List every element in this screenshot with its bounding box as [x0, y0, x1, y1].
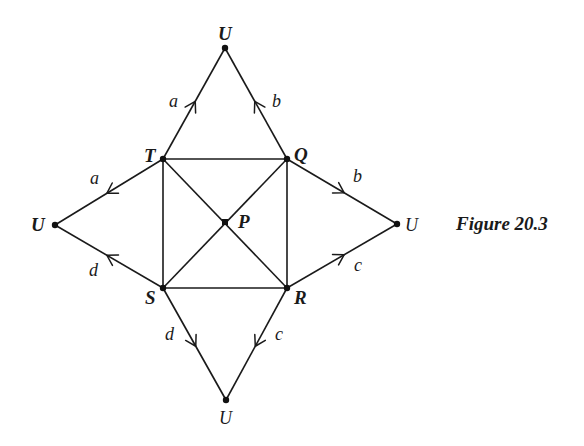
node-P [222, 219, 228, 225]
edge-label-a-top: a [169, 91, 178, 111]
label-R: R [293, 287, 307, 308]
graph-diagram: U T Q P U U S R U a b a d b c d c Figure… [0, 0, 584, 446]
label-P: P [237, 211, 250, 232]
node-U-top [222, 45, 228, 51]
label-U-top: U [218, 23, 233, 44]
edge-R-Uright [287, 224, 397, 288]
edge-label-d-left: d [89, 260, 99, 280]
edge-label-c-bottom: c [275, 324, 283, 344]
edge-label-c-right: c [354, 255, 362, 275]
edge-Q-Uright [287, 159, 397, 224]
edge-R-Ubottom [226, 288, 287, 400]
edge-label-d-bottom: d [165, 324, 175, 344]
node-S [160, 285, 166, 291]
node-T [160, 156, 166, 162]
figure-caption: Figure 20.3 [455, 213, 548, 234]
label-Q: Q [294, 144, 308, 165]
edge-S-Ubottom [163, 288, 226, 400]
edge-label-b-right: b [353, 166, 362, 186]
edge-label-a-left: a [90, 168, 99, 188]
node-R [284, 285, 290, 291]
node-Q [284, 156, 290, 162]
edge-S-Uleft [55, 225, 163, 288]
node-U-right [394, 221, 400, 227]
label-S: S [145, 287, 156, 308]
label-U-bottom: U [219, 408, 233, 428]
node-U-bottom [223, 397, 229, 403]
edge-T-Uleft [55, 159, 163, 225]
label-U-left: U [31, 214, 46, 235]
label-U-right: U [405, 215, 419, 235]
node-U-left [52, 222, 58, 228]
edge-label-b-top: b [272, 91, 281, 111]
label-T: T [144, 145, 157, 166]
